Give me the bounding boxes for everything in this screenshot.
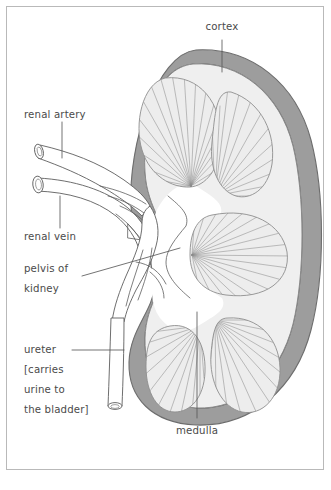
kidney-diagram-figure: cortex renal artery renal vein pelvis of… bbox=[0, 0, 331, 490]
label-pelvis-of-kidney-line2: kidney bbox=[24, 283, 59, 294]
label-ureter-line1: ureter bbox=[24, 344, 57, 355]
label-cortex: cortex bbox=[205, 21, 238, 32]
label-ureter-line4: the bladder] bbox=[24, 404, 89, 415]
label-medulla: medulla bbox=[176, 425, 218, 436]
label-ureter-line2: [carries bbox=[24, 364, 64, 375]
label-renal-vein: renal vein bbox=[24, 231, 76, 242]
label-renal-artery: renal artery bbox=[24, 109, 86, 120]
label-ureter-line3: urine to bbox=[24, 384, 65, 395]
label-pelvis-of-kidney-line1: pelvis of bbox=[24, 263, 68, 274]
ureter-tube bbox=[108, 318, 124, 406]
